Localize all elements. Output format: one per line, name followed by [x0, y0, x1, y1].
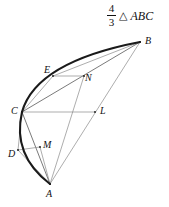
- segments-layer: [18, 42, 140, 184]
- point-label-m: M: [43, 140, 51, 150]
- vertex-point-d: [17, 149, 19, 151]
- point-label-c: C: [11, 106, 18, 116]
- chord-C-B: [22, 42, 140, 112]
- vertices-layer: [17, 41, 141, 185]
- segment-E-B: [53, 42, 140, 76]
- geometry-diagram: [0, 0, 169, 207]
- vertex-point-m: [39, 146, 41, 148]
- figure-canvas: 4 3 △ ABC ABCDELMN: [0, 0, 169, 207]
- vertex-point-l: [94, 111, 96, 113]
- segment-C-E: [22, 76, 53, 112]
- point-label-d: D: [8, 149, 15, 159]
- point-label-l: L: [100, 106, 106, 116]
- vertex-point-b: [139, 41, 141, 43]
- arcs-layer: [20, 42, 140, 184]
- vertex-point-c: [21, 111, 23, 113]
- chord-A-B: [50, 42, 140, 184]
- point-label-n: N: [85, 73, 92, 83]
- point-label-e: E: [44, 65, 50, 75]
- point-label-a: A: [46, 189, 52, 199]
- vertex-point-a: [49, 183, 51, 185]
- point-label-b: B: [145, 36, 151, 46]
- vertex-point-e: [52, 75, 54, 77]
